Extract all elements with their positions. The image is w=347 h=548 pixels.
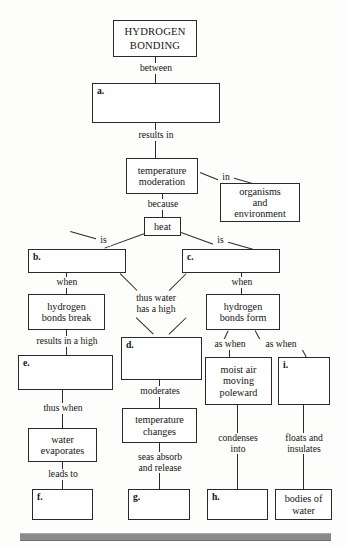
edge-label-results-in: results in: [130, 130, 182, 141]
node-organisms-and-environment-label: organismsandenvironment: [234, 186, 286, 219]
node-f-label: f.: [37, 492, 43, 502]
node-temperature-changes: temperaturechanges: [122, 408, 197, 443]
node-g-label: g.: [133, 492, 140, 502]
node-d[interactable]: d.: [121, 337, 202, 380]
node-water-evaporates-label: waterevaporates: [41, 434, 85, 456]
node-heat-label: heat: [154, 221, 171, 232]
connector-heat-to-c: [181, 232, 217, 246]
node-hydrogen-bonds-break: hydrogenbonds break: [28, 294, 105, 330]
edge-label-is-left: is: [96, 235, 111, 246]
node-e[interactable]: e.: [18, 355, 113, 390]
node-water-evaporates: waterevaporates: [28, 428, 97, 462]
edge-label-results-in-a-high: results in a high: [16, 336, 118, 347]
connector-c-to-d: [169, 273, 187, 291]
edge-label-leads-to: leads to: [36, 469, 90, 480]
node-organisms-and-environment: organismsandenvironment: [220, 183, 300, 222]
node-i[interactable]: i.: [278, 357, 330, 405]
node-hydrogen-bonding: HYDROGENBONDING: [113, 20, 197, 57]
node-h-label: h.: [212, 492, 220, 502]
edge-label-in: in: [218, 172, 234, 183]
node-moist-air-moving-poleward: moist airmovingpoleward: [205, 357, 272, 405]
node-moist-air-moving-poleward-label: moist airmovingpoleward: [220, 364, 258, 397]
edge-label-because: because: [136, 199, 190, 210]
node-f[interactable]: f.: [32, 489, 93, 520]
node-d-label: d.: [126, 340, 134, 350]
node-heat: heat: [144, 217, 181, 236]
node-hydrogen-bonding-label: HYDROGENBONDING: [124, 25, 185, 51]
edge-label-between: between: [131, 63, 181, 74]
edge-label-thus-water-has-a-high: thus waterhas a high: [124, 293, 188, 314]
edge-label-as-when-left: as when: [206, 339, 254, 350]
node-i-label: i.: [283, 360, 288, 370]
edge-label-floats-and-insulates: floats andinsulates: [272, 433, 336, 454]
edge-label-is-right: is: [213, 235, 228, 246]
node-e-label: e.: [23, 358, 30, 368]
node-a-label: a.: [97, 86, 104, 96]
node-a[interactable]: a.: [92, 83, 220, 123]
node-hydrogen-bonds-form: hydrogenbonds form: [206, 294, 280, 330]
node-b-label: b.: [33, 252, 41, 262]
node-bodies-of-water-label: bodies ofwater: [285, 493, 323, 515]
edge-label-as-when-right: as when: [257, 339, 305, 350]
node-bodies-of-water: bodies ofwater: [275, 489, 332, 520]
concept-map-canvas: between results in in because is is when…: [0, 0, 347, 548]
connector-b-to-d: [120, 273, 138, 291]
node-g[interactable]: g.: [128, 489, 190, 520]
node-b[interactable]: b.: [28, 249, 126, 273]
footer-rule: [20, 533, 331, 541]
node-temperature-moderation-label: temperaturemoderation: [138, 165, 187, 187]
connector-thuswater-to-d-right: [168, 317, 186, 335]
node-hydrogen-bonds-break-label: hydrogenbonds break: [42, 301, 92, 323]
node-c[interactable]: c.: [182, 249, 280, 273]
node-temperature-moderation: temperaturemoderation: [126, 158, 198, 194]
edge-label-seas-absorb-and-release: seas absorband release: [126, 452, 194, 473]
node-h[interactable]: h.: [207, 489, 268, 520]
edge-label-moderates: moderates: [131, 386, 189, 397]
node-c-label: c.: [187, 252, 194, 262]
edge-label-when-left: when: [48, 277, 86, 288]
edge-label-thus-when: thus when: [34, 403, 92, 414]
connector-thuswater-to-d: [136, 317, 154, 335]
edge-label-condenses-into: condensesinto: [206, 433, 270, 454]
node-hydrogen-bonds-form-label: hydrogenbonds form: [220, 301, 267, 323]
edge-label-when-right: when: [223, 277, 261, 288]
node-temperature-changes-label: temperaturechanges: [135, 414, 184, 436]
